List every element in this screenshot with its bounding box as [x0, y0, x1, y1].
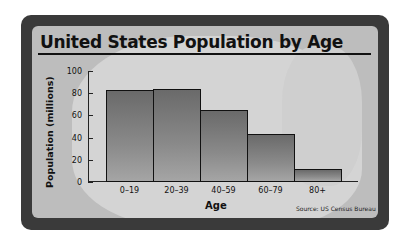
y-tick-label: 60: [52, 111, 82, 120]
y-tick: [88, 93, 93, 94]
bar: [200, 110, 248, 182]
bar: [294, 169, 342, 182]
y-tick-label: 20: [52, 155, 82, 164]
bar: [153, 89, 201, 182]
bar: [106, 90, 154, 182]
source-note: Source: US Census Bureau: [296, 205, 376, 212]
bar: [247, 134, 295, 182]
title-rule: [38, 53, 371, 55]
x-tick-label: 0–19: [106, 186, 153, 195]
x-tick-label: 40–59: [200, 186, 247, 195]
y-tick: [88, 115, 93, 116]
y-tick: [88, 138, 93, 139]
x-axis-label: Age: [205, 200, 227, 211]
x-tick-label: 20–39: [153, 186, 200, 195]
y-tick-label: 80: [52, 89, 82, 98]
chart-title: United States Population by Age: [40, 32, 343, 52]
x-tick-label: 60–79: [247, 186, 294, 195]
x-tick-label: 80+: [294, 186, 341, 195]
y-tick: [88, 71, 93, 72]
y-tick-label: 40: [52, 133, 82, 142]
y-tick-label: 0: [52, 178, 82, 187]
plot-area: 0204060801000–1920–3940–5960–7980+: [88, 71, 358, 182]
y-tick-label: 100: [52, 67, 82, 76]
y-axis: [88, 71, 89, 182]
y-tick: [88, 160, 93, 161]
y-tick: [88, 182, 93, 183]
